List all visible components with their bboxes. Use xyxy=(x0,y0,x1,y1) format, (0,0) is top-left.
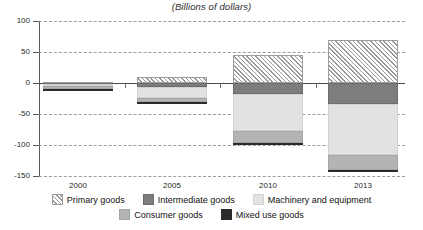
gridline xyxy=(39,176,405,177)
bar-segment xyxy=(233,83,303,94)
legend-swatch-icon xyxy=(253,194,264,205)
x-axis-tick xyxy=(125,83,126,88)
bar-segment xyxy=(328,170,398,172)
x-axis-tick-label: 2010 xyxy=(238,181,298,190)
legend-item[interactable]: Primary goods xyxy=(52,194,125,205)
legend-swatch-icon xyxy=(52,194,63,205)
bar-group-2005 xyxy=(137,21,207,176)
bar-group-2013 xyxy=(328,21,398,176)
bar-segment xyxy=(233,94,303,131)
x-axis-tick xyxy=(220,83,221,88)
y-axis-tick-label: 100 xyxy=(0,16,30,25)
legend-item[interactable]: Consumer goods xyxy=(119,209,203,220)
legend-label: Mixed use goods xyxy=(236,210,304,220)
bar-group-2000 xyxy=(43,21,113,176)
x-axis-tick-label: 2000 xyxy=(48,181,108,190)
legend-item[interactable]: Intermediate goods xyxy=(143,194,235,205)
bar-segment xyxy=(233,55,303,83)
bar-segment xyxy=(43,89,113,91)
plot-area xyxy=(39,21,405,176)
bar-group-2010 xyxy=(233,21,303,176)
legend-row-bottom: Consumer goodsMixed use goods xyxy=(0,207,423,222)
bar-segment xyxy=(233,143,303,145)
y-axis-tick-label: -150 xyxy=(0,171,30,180)
bar-segment xyxy=(137,87,207,98)
legend-item[interactable]: Machinery and equipment xyxy=(253,194,372,205)
legend-label: Consumer goods xyxy=(134,210,203,220)
legend-swatch-icon xyxy=(143,194,154,205)
bar-segment xyxy=(137,102,207,104)
y-axis-tick-label: -100 xyxy=(0,140,30,149)
chart-container: (Billions of dollars) 100500-50-100-150 … xyxy=(0,0,423,230)
bar-segment xyxy=(328,104,398,155)
y-axis-tick-label: 50 xyxy=(0,47,30,56)
legend-swatch-icon xyxy=(221,209,232,220)
x-axis-tick-label: 2013 xyxy=(333,181,393,190)
legend-label: Intermediate goods xyxy=(158,195,235,205)
legend-item[interactable]: Mixed use goods xyxy=(221,209,304,220)
legend-label: Machinery and equipment xyxy=(268,195,372,205)
bar-segment xyxy=(233,131,303,143)
y-axis-tick-label: -50 xyxy=(0,109,30,118)
legend-row-top: Primary goodsIntermediate goodsMachinery… xyxy=(0,192,423,207)
bar-segment xyxy=(328,83,398,104)
chart-legend: Primary goodsIntermediate goodsMachinery… xyxy=(0,192,423,222)
bar-segment xyxy=(328,155,398,171)
y-axis-tick-label: 0 xyxy=(0,78,30,87)
bar-segment xyxy=(328,40,398,83)
chart-title: (Billions of dollars) xyxy=(0,1,423,12)
x-axis-tick xyxy=(316,83,317,88)
legend-swatch-icon xyxy=(119,209,130,220)
x-axis-tick-label: 2005 xyxy=(142,181,202,190)
legend-label: Primary goods xyxy=(67,195,125,205)
